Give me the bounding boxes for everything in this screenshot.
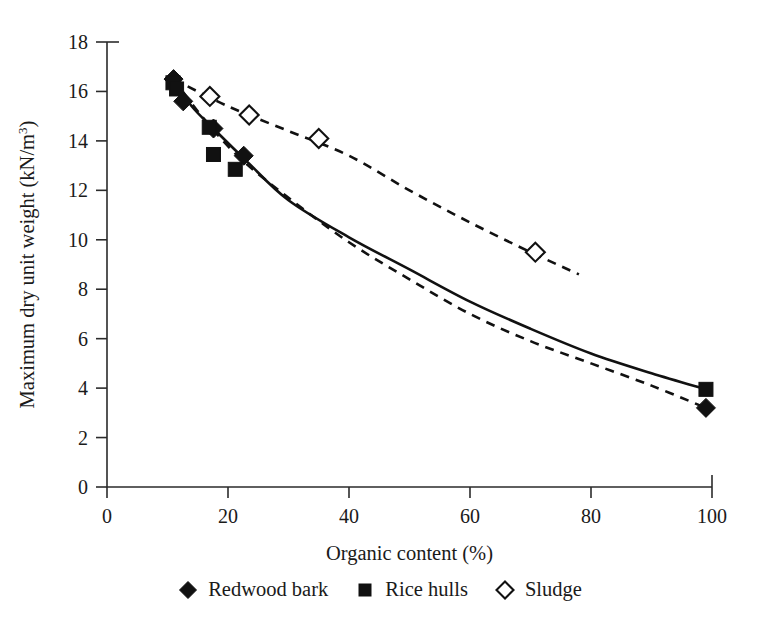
y-tick-label-14: 14 — [68, 130, 88, 152]
data-point — [202, 120, 216, 134]
legend-label: Sludge — [525, 578, 582, 601]
y-tick-label-4: 4 — [78, 377, 88, 399]
data-point — [696, 398, 715, 417]
x-tick-label-60: 60 — [460, 505, 480, 527]
y-tick-label-0: 0 — [78, 476, 88, 498]
filled-square-icon — [354, 579, 376, 601]
data-point — [526, 243, 545, 262]
axis-ticks — [96, 42, 712, 498]
y-axis-title: Maximum dry unit weight (kN/m3) — [15, 121, 39, 409]
data-point — [200, 87, 219, 106]
data-point — [699, 382, 713, 396]
chart-legend: Redwood barkRice hullsSludge — [0, 578, 759, 601]
legend-label: Redwood bark — [208, 578, 328, 601]
y-tick-label-10: 10 — [68, 229, 88, 251]
y-tick-label-16: 16 — [68, 80, 88, 102]
trend-curve-organic-solid-trend — [174, 79, 706, 389]
x-tick-label-40: 40 — [339, 505, 359, 527]
data-point — [240, 105, 259, 124]
y-tick-label-6: 6 — [78, 328, 88, 350]
y-tick-label-2: 2 — [78, 427, 88, 449]
y-tick-label-12: 12 — [68, 179, 88, 201]
open-diamond-icon — [494, 579, 516, 601]
y-tick-label-18: 18 — [68, 31, 88, 53]
filled-diamond-icon — [177, 579, 199, 601]
legend-item-redwood-bark[interactable]: Redwood bark — [177, 578, 328, 601]
trend-curves — [174, 79, 706, 408]
x-tick-label-80: 80 — [581, 505, 601, 527]
plot-area: 024681012141618020406080100 Organic cont… — [0, 0, 759, 635]
axes — [107, 42, 712, 487]
legend-item-sludge[interactable]: Sludge — [494, 578, 582, 601]
data-point — [228, 162, 242, 176]
legend-item-rice-hulls[interactable]: Rice hulls — [354, 578, 468, 601]
x-tick-label-20: 20 — [218, 505, 238, 527]
chart-figure: 024681012141618020406080100 Organic cont… — [0, 0, 759, 635]
trend-curve-organic-dashed-trend — [174, 79, 706, 408]
x-tick-label-0: 0 — [102, 505, 112, 527]
data-point — [170, 82, 184, 96]
data-markers — [164, 70, 715, 418]
axis-spines — [107, 42, 712, 487]
x-tick-label-100: 100 — [697, 505, 727, 527]
data-point — [206, 147, 220, 161]
legend-label: Rice hulls — [385, 578, 468, 601]
x-axis-title: Organic content (%) — [326, 542, 493, 565]
axis-tick-labels: 024681012141618020406080100 — [68, 31, 727, 527]
y-tick-label-8: 8 — [78, 278, 88, 300]
